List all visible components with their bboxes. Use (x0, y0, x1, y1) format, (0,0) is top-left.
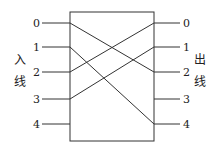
output-number: 3 (183, 93, 190, 106)
input-number: 4 (33, 118, 40, 131)
output-number: 0 (183, 17, 190, 30)
output-number: 4 (183, 118, 190, 131)
switch-box (70, 12, 154, 141)
input-number: 0 (33, 17, 40, 30)
input-label-char-2: 线 (14, 75, 26, 89)
input-label-char-1: 入 (14, 53, 26, 67)
connection-line (70, 47, 154, 99)
input-number: 3 (33, 93, 40, 106)
connection-line (70, 47, 154, 124)
output-label-char-2: 线 (194, 75, 206, 89)
output-label-char-1: 出 (194, 53, 206, 67)
switch-diagram: 0123401234 入 线 出 线 (0, 0, 219, 152)
input-number: 1 (33, 41, 40, 54)
input-number: 2 (33, 66, 40, 79)
output-number: 2 (183, 66, 190, 79)
output-number: 1 (183, 41, 190, 54)
